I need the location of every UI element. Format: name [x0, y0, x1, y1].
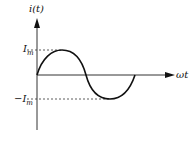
waveform-diagram	[0, 0, 194, 152]
x-axis-label: ωt	[176, 70, 188, 80]
peak-label: Im	[23, 44, 34, 57]
trough-label: −Im	[14, 94, 33, 107]
y-axis-label: i(t)	[29, 4, 44, 14]
y-axis-arrow-icon	[34, 18, 40, 28]
x-axis-arrow-icon	[165, 72, 175, 78]
